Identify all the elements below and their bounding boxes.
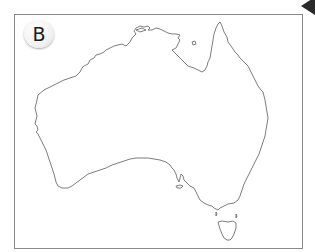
figure-label-badge: B: [24, 20, 54, 48]
mainland-coastline: [35, 22, 268, 210]
tiwi-islands: [136, 28, 146, 32]
kangaroo-island: [176, 185, 183, 188]
flinders-island: [236, 214, 237, 218]
bass-strait-island: [216, 212, 217, 216]
groote-eylandt: [192, 41, 196, 45]
figure-label: B: [32, 25, 45, 44]
tasmania: [218, 221, 236, 240]
